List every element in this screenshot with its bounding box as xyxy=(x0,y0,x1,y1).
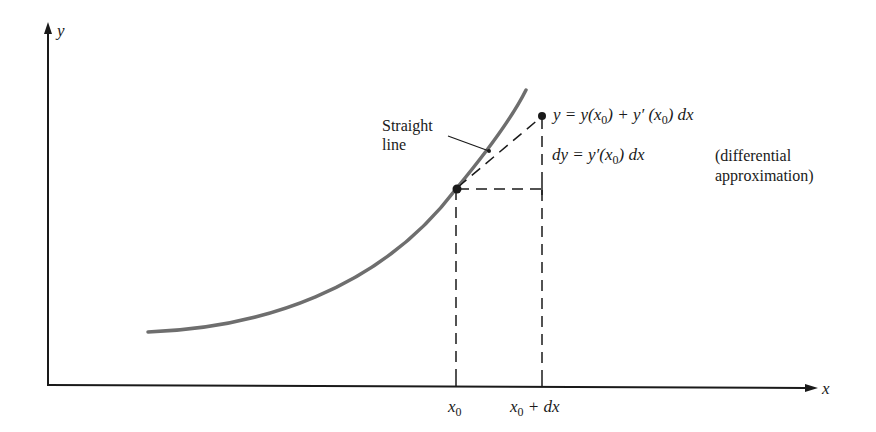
x-axis-label: x xyxy=(822,380,830,398)
diagram-canvas xyxy=(0,0,876,432)
point-tangent-end xyxy=(538,112,546,120)
function-curve xyxy=(148,90,526,332)
y-axis-arrow-icon xyxy=(44,22,52,34)
straight-line-pointer xyxy=(448,136,489,151)
tick-label-x0-plus-dx: x0 + dx xyxy=(510,398,560,416)
y-axis-label: y xyxy=(57,22,65,40)
x-axis-arrow-icon xyxy=(805,384,818,392)
tick-label-x0: x0 xyxy=(448,398,462,416)
differential-equation: dy = y′(x0) dx xyxy=(552,146,644,164)
point-x0 xyxy=(453,185,462,194)
differential-approximation-note: (differential approximation) xyxy=(715,146,814,186)
pointer-dot xyxy=(487,149,491,153)
tangent-equation: y = y(x0) + y′ (x0) dx xyxy=(553,106,694,124)
x-axis xyxy=(47,385,806,388)
dashed-tangent-line xyxy=(458,118,540,187)
straight-line-label: Straight line xyxy=(382,116,433,154)
